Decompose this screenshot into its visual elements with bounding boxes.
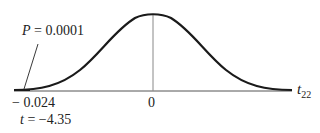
p-leader-line (24, 44, 38, 89)
t-value-label: t = −4.35 (20, 113, 71, 127)
axis-label: t22 (297, 82, 311, 100)
axis-subscript: 22 (301, 89, 311, 100)
t-value-text: = −4.35 (24, 112, 71, 127)
p-symbol: P (22, 23, 31, 38)
left-tail-shading (14, 89, 30, 91)
p-value-label: P = 0.0001 (22, 24, 84, 38)
tick-label-center: 0 (148, 96, 155, 110)
p-value-text: = 0.0001 (31, 23, 84, 38)
tick-label-left: − 0.024 (12, 96, 55, 110)
